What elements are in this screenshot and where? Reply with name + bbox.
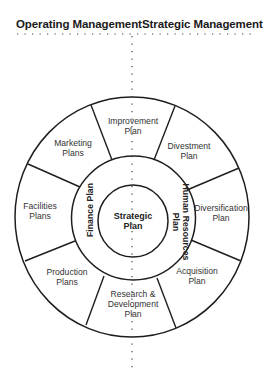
segment-label-line2: Plans [46, 277, 87, 287]
segment-label-line1: Facilities [23, 201, 56, 211]
segment-improvement-plan: Improvement Plan [108, 116, 158, 136]
segment-production-plans: Production Plans [46, 267, 87, 287]
finance-plan-label: Finance Plan [85, 183, 95, 237]
segment-label-line1: Diversification [194, 203, 248, 213]
segment-research-development-plan: Research & Development Plan [108, 289, 159, 319]
segment-label-line1: Acquisition [176, 266, 218, 276]
segment-label-line2: Plan [194, 213, 248, 223]
segment-diversification-plan: Diversification Plan [194, 203, 248, 223]
segment-label-line2: Plan [168, 151, 211, 161]
segment-marketing-plans: Marketing Plans [54, 138, 92, 158]
center-label-line1: Strategic [114, 211, 153, 221]
segment-label-line1: Marketing [54, 138, 92, 148]
strategic-management-title: Strategic Management [142, 18, 263, 30]
segment-label-line1: Improvement [108, 116, 158, 126]
segment-acquisition-plan: Acquisition Plan [176, 266, 218, 286]
segment-facilities-plans: Facilities Plans [23, 201, 56, 221]
operating-management-title: Operating Management [16, 18, 142, 30]
strategic-plan-center-label: Strategic Plan [114, 211, 153, 231]
segment-label-line3: Plan [108, 309, 159, 319]
center-label-line2: Plan [114, 221, 153, 231]
segment-label-line1: Divestment [168, 141, 211, 151]
segment-label-line2: Plans [54, 148, 92, 158]
segment-label-line2: Plans [23, 211, 56, 221]
human-resources-plan-label: Human Resources Plan [171, 184, 191, 261]
segment-label-line2: Development [108, 299, 159, 309]
strategic-plan-wheel-diagram [0, 0, 265, 390]
segment-label-line2: Plan [176, 276, 218, 286]
hr-label-line1: Human Resources [181, 184, 191, 261]
segment-divestment-plan: Divestment Plan [168, 141, 211, 161]
hr-label-line2: Plan [171, 184, 181, 261]
segment-label-line1: Production [46, 267, 87, 277]
segment-label-line1: Research & [108, 289, 159, 299]
segment-label-line2: Plan [108, 126, 158, 136]
